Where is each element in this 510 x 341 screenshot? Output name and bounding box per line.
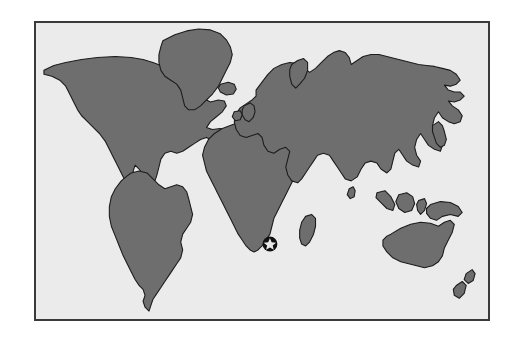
landmass-ireland[interactable] bbox=[232, 111, 242, 121]
star-location-marker[interactable] bbox=[262, 237, 277, 252]
map-frame bbox=[34, 21, 490, 321]
landmass-madagascar[interactable] bbox=[300, 214, 316, 246]
landmass-new-zealand-south[interactable] bbox=[453, 282, 466, 299]
landmass-new-guinea[interactable] bbox=[427, 202, 463, 221]
landmass-iceland[interactable] bbox=[218, 82, 236, 95]
landmass-sri-lanka[interactable] bbox=[347, 187, 355, 199]
map-figure bbox=[0, 0, 510, 341]
landmass-sumatra[interactable] bbox=[376, 191, 395, 211]
landmass-sulawesi[interactable] bbox=[417, 199, 427, 215]
landmass-borneo[interactable] bbox=[396, 193, 415, 213]
landmass-new-zealand-north[interactable] bbox=[464, 270, 475, 284]
world-map-canvas[interactable] bbox=[36, 23, 488, 319]
landmass-south-america[interactable] bbox=[109, 171, 192, 311]
landmass-australia[interactable] bbox=[383, 220, 454, 267]
